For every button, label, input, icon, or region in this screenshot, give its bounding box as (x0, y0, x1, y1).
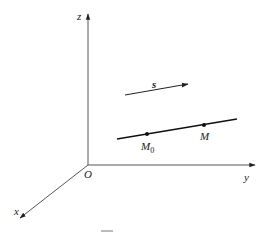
direction-vector-s (125, 84, 188, 95)
z-axis-label: z (76, 10, 82, 22)
origin-label: O (84, 168, 92, 180)
x-axis (20, 165, 88, 218)
point-m-label: M (199, 130, 210, 142)
y-axis-label: y (243, 171, 249, 183)
point-m (202, 123, 206, 127)
caption-mark (101, 230, 113, 232)
point-m0 (145, 132, 149, 136)
diagram-canvas: z y x O s M0 M (0, 0, 263, 235)
vector-s-label: s (151, 78, 156, 90)
x-axis-label: x (13, 205, 19, 217)
point-m0-label: M0 (140, 140, 154, 155)
line-l (117, 119, 237, 139)
